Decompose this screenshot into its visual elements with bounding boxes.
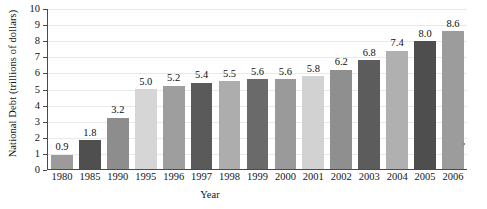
bar — [79, 140, 101, 169]
y-tick-mark — [43, 9, 47, 10]
y-tick-label: 7 — [20, 52, 40, 63]
y-tick-label: 9 — [20, 20, 40, 31]
y-tick-mark — [43, 122, 47, 123]
x-axis-title: Year — [0, 189, 420, 200]
y-tick-label: 3 — [20, 117, 40, 128]
bar — [135, 89, 157, 169]
y-tick-mark — [43, 73, 47, 74]
bar-slot: 5.6 — [244, 9, 272, 169]
bar-slot: 6.2 — [327, 9, 355, 169]
y-tick-mark — [43, 25, 47, 26]
bar-value-label: 8.6 — [433, 19, 473, 30]
bar-slot: 6.8 — [355, 9, 383, 169]
y-tick-mark — [43, 90, 47, 91]
x-axis-tick-labels: 1980198519901995199619971998199920002001… — [48, 172, 467, 188]
y-axis-title: National Debt (trillions of dollars) — [7, 0, 18, 169]
y-tick-label: 10 — [20, 4, 40, 15]
bar — [414, 41, 436, 169]
bar-slot: 5.4 — [188, 9, 216, 169]
y-tick-mark — [43, 41, 47, 42]
bar — [51, 155, 73, 169]
scan-artifact-speck — [463, 143, 465, 145]
bar-slot: 1.8 — [76, 9, 104, 169]
x-tick-label: 2006 — [435, 172, 471, 183]
y-tick-label: 8 — [20, 36, 40, 47]
bar-slot: 5.6 — [271, 9, 299, 169]
bar — [442, 31, 464, 169]
y-tick-mark — [43, 170, 47, 171]
y-tick-mark — [43, 106, 47, 107]
y-tick-label: 2 — [20, 133, 40, 144]
bar — [386, 51, 408, 169]
bar-series: 0.91.83.25.05.25.45.55.65.65.86.26.87.48… — [48, 9, 467, 169]
bar — [191, 83, 213, 169]
bar — [275, 79, 297, 169]
y-tick-label: 0 — [20, 165, 40, 176]
bar-slot: 8.0 — [411, 9, 439, 169]
bar — [247, 79, 269, 169]
bar-slot: 8.6 — [439, 9, 467, 169]
bar — [358, 60, 380, 169]
bar-chart: National Debt (trillions of dollars) 012… — [0, 0, 487, 209]
bar — [302, 76, 324, 169]
bar — [219, 81, 241, 169]
bar — [330, 70, 352, 169]
y-tick-mark — [43, 138, 47, 139]
bar-slot: 5.0 — [132, 9, 160, 169]
bar-slot: 5.2 — [160, 9, 188, 169]
y-tick-label: 6 — [20, 68, 40, 79]
y-tick-label: 1 — [20, 149, 40, 160]
bar-slot: 0.9 — [48, 9, 76, 169]
bar — [163, 86, 185, 169]
plot-area: 012345678910 0.91.83.25.05.25.45.55.65.6… — [47, 9, 467, 170]
y-tick-label: 4 — [20, 101, 40, 112]
y-tick-mark — [43, 154, 47, 155]
y-tick-mark — [43, 57, 47, 58]
bar-slot: 5.5 — [216, 9, 244, 169]
bar-slot: 5.8 — [299, 9, 327, 169]
x-axis-line — [47, 169, 467, 170]
bar — [107, 118, 129, 169]
y-tick-label: 5 — [20, 85, 40, 96]
bar-slot: 3.2 — [104, 9, 132, 169]
